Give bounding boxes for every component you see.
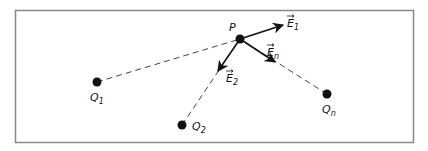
charge-qn-label: Qn [322, 103, 336, 118]
vector-e1-label: E1 [287, 15, 299, 33]
vector-e1-arrow [240, 25, 283, 39]
vector-e2-arrow [218, 39, 240, 71]
charge-qn-dot [323, 90, 332, 99]
svg-text:En: En [267, 46, 279, 61]
charge-q2-label: Q2 [192, 120, 206, 135]
point-p-dot [236, 35, 245, 44]
charge-q1-dot [93, 78, 102, 87]
vector-en-label: En [267, 44, 279, 62]
electric-field-diagram: P Q1 Q2 Qn E1 E2 En [0, 0, 428, 151]
charge-q2-dot [178, 121, 187, 130]
charge-q1-label: Q1 [90, 91, 104, 106]
point-p-label: P [229, 21, 236, 34]
diagram-frame [16, 11, 414, 143]
vector-e2-label: E2 [226, 70, 238, 88]
dashed-line-q1 [97, 39, 240, 82]
svg-text:E1: E1 [287, 17, 299, 32]
svg-text:E2: E2 [226, 72, 238, 87]
